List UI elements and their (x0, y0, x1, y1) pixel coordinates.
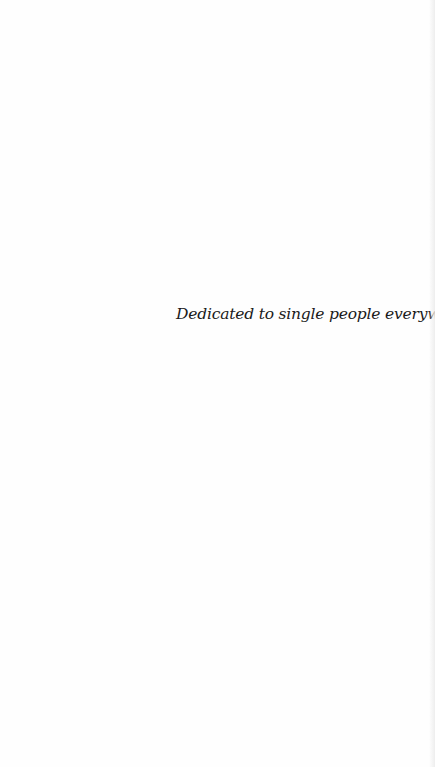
page-edge-shadow (429, 0, 435, 767)
dedication-text: Dedicated to single people everywhere. (176, 305, 435, 323)
book-page: Dedicated to single people everywhere. (0, 0, 435, 767)
